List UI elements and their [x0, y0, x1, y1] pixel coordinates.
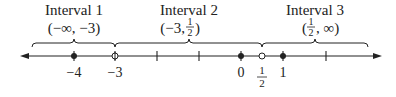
- svg-text:1: 1: [309, 16, 314, 27]
- svg-text:(−3,: (−3,: [160, 20, 185, 37]
- brace-interval-2: [115, 39, 262, 47]
- label-one-half: 1 2: [257, 64, 267, 89]
- interval-1-title: Interval 1: [45, 2, 103, 18]
- point-minus-3: [112, 51, 118, 61]
- right-arrow-icon: [373, 53, 382, 59]
- label-1: 1: [280, 65, 287, 80]
- label-minus-4: −4: [67, 65, 82, 80]
- svg-text:2: 2: [309, 27, 314, 38]
- number-line-svg: −4 −3 0 1 2 1 Interval 1 (−∞, −3) Interv…: [0, 0, 396, 97]
- point-minus-4: [71, 51, 77, 61]
- interval-3-notation: ( 1 2 , ∞): [302, 16, 339, 38]
- svg-text:, ∞): , ∞): [316, 20, 339, 37]
- brace-interval-3: [262, 39, 368, 47]
- number-line-diagram: −4 −3 0 1 2 1 Interval 1 (−∞, −3) Interv…: [0, 0, 396, 97]
- interval-2-notation: (−3, 1 2 ): [160, 16, 200, 38]
- braces: [32, 39, 368, 47]
- svg-text:1: 1: [188, 16, 193, 27]
- svg-text:1: 1: [259, 64, 265, 76]
- interval-1-notation: (−∞, −3): [48, 20, 101, 37]
- left-arrow-icon: [20, 53, 29, 59]
- point-one-half: [259, 53, 265, 59]
- svg-text:2: 2: [259, 77, 265, 89]
- point-0: [238, 51, 244, 61]
- svg-text:(: (: [302, 20, 307, 37]
- interval-3-title: Interval 3: [286, 2, 344, 18]
- point-1: [280, 51, 286, 61]
- svg-text:): ): [195, 20, 200, 37]
- label-0: 0: [238, 65, 245, 80]
- brace-interval-1: [32, 39, 115, 47]
- svg-text:2: 2: [188, 27, 193, 38]
- label-minus-3: −3: [108, 65, 123, 80]
